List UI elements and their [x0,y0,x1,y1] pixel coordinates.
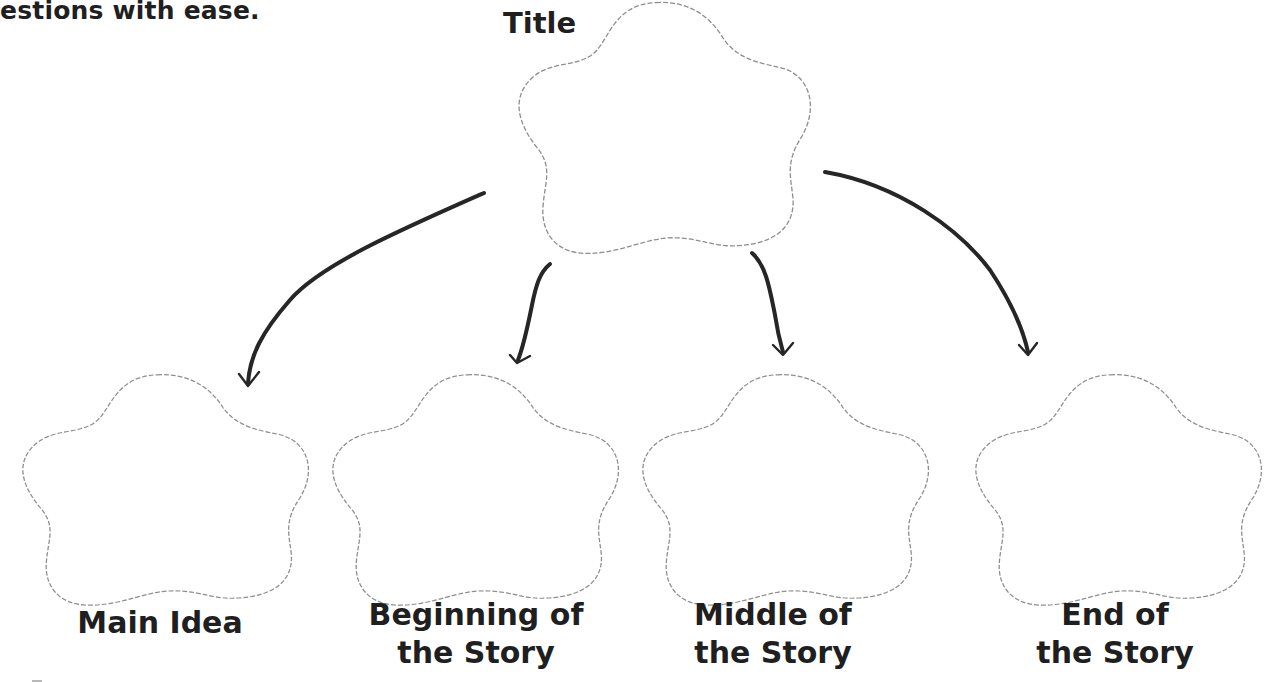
flower-node-end [976,375,1262,606]
node-label-line: Beginning of [369,596,584,634]
arrow-to-beginning [510,264,550,363]
node-label-end: End of the Story [1036,596,1193,672]
node-label-line: Main Idea [77,604,242,642]
node-label-line: the Story [1036,634,1193,672]
flower-node-middle [643,375,929,606]
node-label-line: End of [1036,596,1193,634]
story-map-diagram [0,0,1265,682]
flower-node-main-idea [23,375,309,606]
flower-node-beginning [333,375,619,606]
arrow-to-main-idea [239,193,484,386]
node-label-line: the Story [694,634,852,672]
node-label-line: Middle of [694,596,852,634]
flower-node-title [519,2,810,253]
node-label-middle: Middle of the Story [694,596,852,672]
node-label-main-idea: Main Idea [77,604,242,642]
node-label-beginning: Beginning of the Story [369,596,584,672]
node-label-title: Title [503,6,576,40]
arrow-to-end [825,172,1037,355]
node-label-line: the Story [369,634,584,672]
arrow-to-middle [752,253,793,355]
